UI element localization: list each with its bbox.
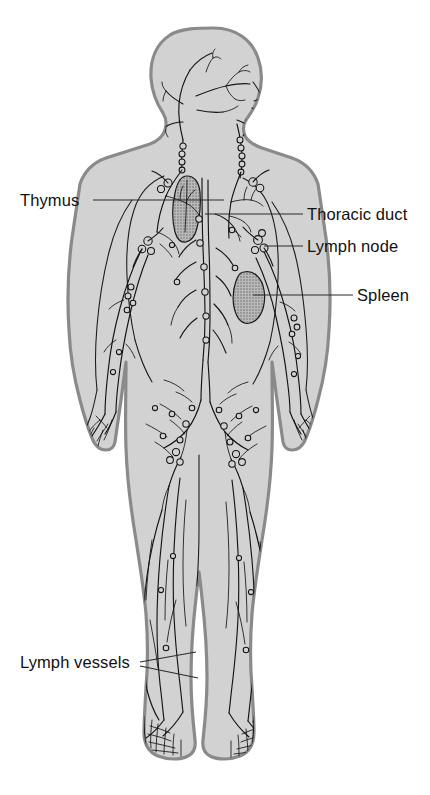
label-thoracic-duct: Thoracic duct [307, 205, 408, 223]
label-lymph-node: Lymph node [307, 237, 398, 255]
diagram-canvas: Thymus Thoracic duct Lymph node Spleen L… [0, 0, 430, 795]
spleen-organ [233, 272, 264, 324]
thymus-organ [173, 176, 201, 242]
label-lymph-vessels: Lymph vessels [20, 653, 130, 671]
label-spleen: Spleen [357, 286, 409, 304]
body-silhouette [68, 28, 330, 759]
lymphatic-system-diagram: Thymus Thoracic duct Lymph node Spleen L… [0, 0, 430, 795]
label-thymus: Thymus [20, 191, 79, 209]
